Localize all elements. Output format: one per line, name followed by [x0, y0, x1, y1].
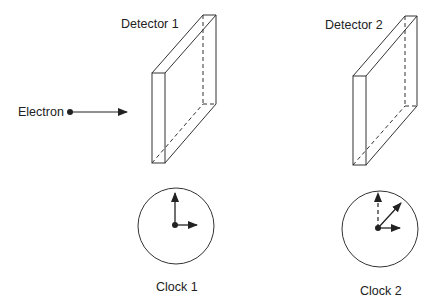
clock-2-label: Clock 2	[360, 284, 402, 298]
clock-2: Clock 2	[342, 191, 418, 298]
clock-2-hand-diagonal	[378, 203, 401, 228]
detector-1-label: Detector 1	[121, 17, 179, 31]
clock-1: Clock 1	[138, 188, 214, 294]
detector-2-label: Detector 2	[325, 18, 383, 32]
clock-1-center	[172, 222, 178, 228]
clock-2-center	[375, 225, 381, 231]
detector-2-front-face	[353, 76, 366, 165]
electron-group: Electron	[18, 105, 127, 119]
detector-2: Detector 2	[325, 16, 417, 165]
clock-1-label: Clock 1	[156, 280, 198, 294]
electron-label: Electron	[18, 105, 64, 119]
detector-1: Detector 1	[121, 15, 216, 163]
diagram-canvas: Electron Detector 1 Detector 2	[0, 0, 434, 304]
